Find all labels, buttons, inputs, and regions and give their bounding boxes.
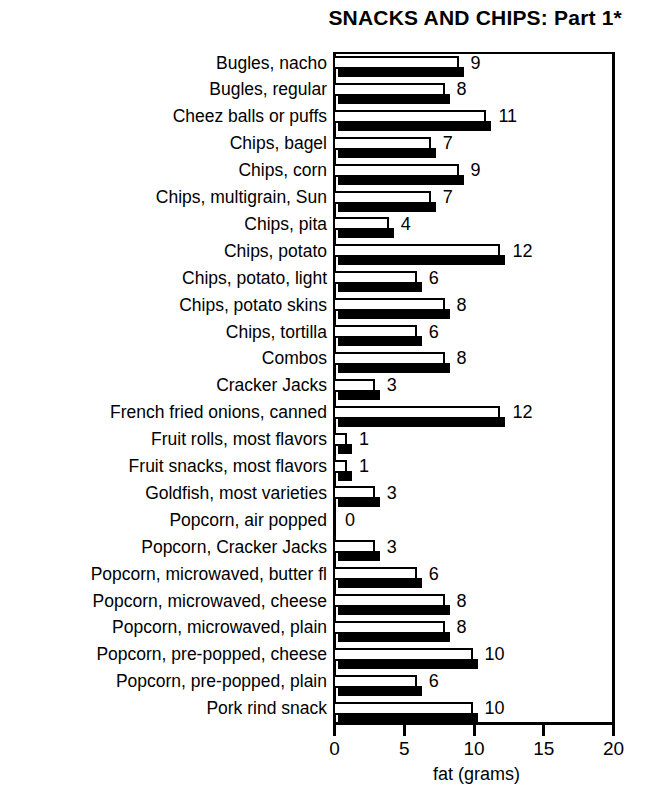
bar-value-label: 1 [359,430,369,448]
bar-face[interactable] [333,702,473,715]
bar-face[interactable] [333,540,375,553]
category-label: Popcorn, Cracker Jacks [0,537,327,557]
category-label: Chips, tortilla [0,322,327,342]
bar-value-label: 6 [429,672,439,690]
category-label: Chips, multigrain, Sun [0,187,327,207]
bar-face[interactable] [333,486,375,499]
x-tick-label: 20 [594,738,634,760]
bar-value-label: 9 [471,161,481,179]
x-tick-label: 10 [454,738,494,760]
x-tick-mark [333,725,336,736]
category-label: Pork rind snack [0,698,327,718]
bar-value-label: 12 [512,403,532,421]
bar-face[interactable] [333,675,417,688]
x-axis-title: fat (grams) [333,764,620,785]
category-label: Bugles, nacho [0,53,327,73]
bar-value-label: 6 [429,565,439,583]
bar-face[interactable] [333,433,347,446]
category-label-column: Bugles, nachoBugles, regularCheez balls … [0,52,327,725]
category-label: Chips, pita [0,214,327,234]
category-label: Popcorn, microwaved, cheese [0,591,327,611]
x-tick-mark [612,725,615,736]
bar-face[interactable] [333,325,417,338]
bar-value-label: 10 [485,645,505,663]
bar-face[interactable] [333,406,500,419]
bar-face[interactable] [333,298,445,311]
category-label: Fruit snacks, most flavors [0,456,327,476]
bar-face[interactable] [333,217,389,230]
category-label: Popcorn, air popped [0,510,327,530]
category-label: Popcorn, microwaved, butter fl [0,564,327,584]
bar-face[interactable] [333,567,417,580]
bar-value-label: 9 [471,54,481,72]
bar-face[interactable] [333,244,500,257]
bar-value-label: 11 [498,107,517,125]
x-tick-label: 15 [524,738,564,760]
x-tick-label: 5 [384,738,424,760]
chart-title: SNACKS AND CHIPS: Part 1* [0,6,622,30]
bars-layer: 981179741268683121130368810610 [333,52,615,725]
category-label: Bugles, regular [0,79,327,99]
bar-value-label: 6 [429,269,439,287]
bar-face[interactable] [333,191,431,204]
bar-value-label: 8 [457,349,467,367]
bar-value-label: 0 [345,511,355,529]
category-label: Cheez balls or puffs [0,106,327,126]
bar-value-label: 3 [387,484,397,502]
chart-page: SNACKS AND CHIPS: Part 1* Bugles, nachoB… [0,0,659,807]
category-label: French fried onions, canned [0,402,327,422]
bar-value-label: 7 [443,188,453,206]
bar-face[interactable] [333,83,445,96]
bar-value-label: 8 [457,618,467,636]
category-label: Fruit rolls, most flavors [0,429,327,449]
bar-value-label: 8 [457,592,467,610]
bar-value-label: 12 [512,242,532,260]
bar-face[interactable] [333,271,417,284]
bar-face[interactable] [333,379,375,392]
bar-face[interactable] [333,110,486,123]
bar-value-label: 4 [401,215,411,233]
bar-value-label: 8 [457,80,467,98]
bar-face[interactable] [333,352,445,365]
category-label: Chips, bagel [0,133,327,153]
bar-face[interactable] [333,137,431,150]
category-label: Goldfish, most varieties [0,483,327,503]
bar-value-label: 10 [485,699,505,717]
bar-value-label: 7 [443,134,453,152]
bar-face[interactable] [333,594,445,607]
bar-face[interactable] [333,648,473,661]
bar-value-label: 3 [387,376,397,394]
category-label: Chips, corn [0,160,327,180]
category-label: Combos [0,348,327,368]
x-tick-mark [473,725,476,736]
bar-value-label: 3 [387,538,397,556]
category-label: Chips, potato skins [0,295,327,315]
bar-face[interactable] [333,460,347,473]
bar-value-label: 8 [457,296,467,314]
x-tick-mark [403,725,406,736]
bar-value-label: 1 [359,457,369,475]
category-label: Chips, potato, light [0,268,327,288]
x-tick-mark [542,725,545,736]
category-label: Cracker Jacks [0,375,327,395]
category-label: Popcorn, pre-popped, plain [0,671,327,691]
x-tick-label: 0 [315,738,355,760]
bar-face[interactable] [333,621,445,634]
category-label: Popcorn, pre-popped, cheese [0,644,327,664]
category-label: Chips, potato [0,241,327,261]
bar-face[interactable] [333,56,459,69]
bar-value-label: 6 [429,323,439,341]
bar-face[interactable] [333,164,459,177]
category-label: Popcorn, microwaved, plain [0,617,327,637]
